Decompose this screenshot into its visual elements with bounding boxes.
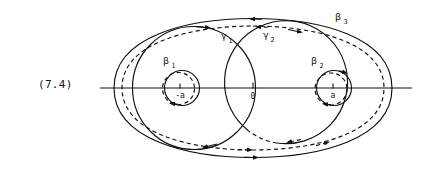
- label-gamma-1-sub: 1: [229, 37, 233, 45]
- point-label-origin: 0: [251, 92, 256, 101]
- point-label-plus-a: a: [331, 91, 336, 100]
- label-beta-1: β 1: [163, 55, 176, 70]
- figure-container: (7.4): [0, 0, 443, 172]
- label-beta-3-sub: 3: [344, 18, 348, 26]
- label-gamma-2: γ 2: [263, 29, 275, 44]
- label-beta-2: β 2: [311, 55, 324, 70]
- contour-diagram: -a 0 a β 1 β 2 β 3 γ 1 γ: [0, 0, 443, 172]
- label-beta-2-sub: 2: [320, 62, 324, 70]
- label-gamma-2-base: γ: [263, 29, 269, 40]
- label-gamma-1-base: γ: [221, 30, 227, 41]
- label-beta-1-sub: 1: [172, 62, 176, 70]
- label-beta-2-base: β: [311, 55, 317, 66]
- curve-labels: β 1 β 2 β 3 γ 1 γ 2: [163, 11, 348, 70]
- label-gamma-2-sub: 2: [271, 36, 275, 44]
- point-label-minus-a: -a: [175, 91, 185, 100]
- label-gamma-1: γ 1: [221, 30, 233, 45]
- label-beta-3-base: β: [335, 11, 341, 22]
- label-beta-1-base: β: [163, 55, 169, 66]
- label-beta-3: β 3: [335, 11, 348, 26]
